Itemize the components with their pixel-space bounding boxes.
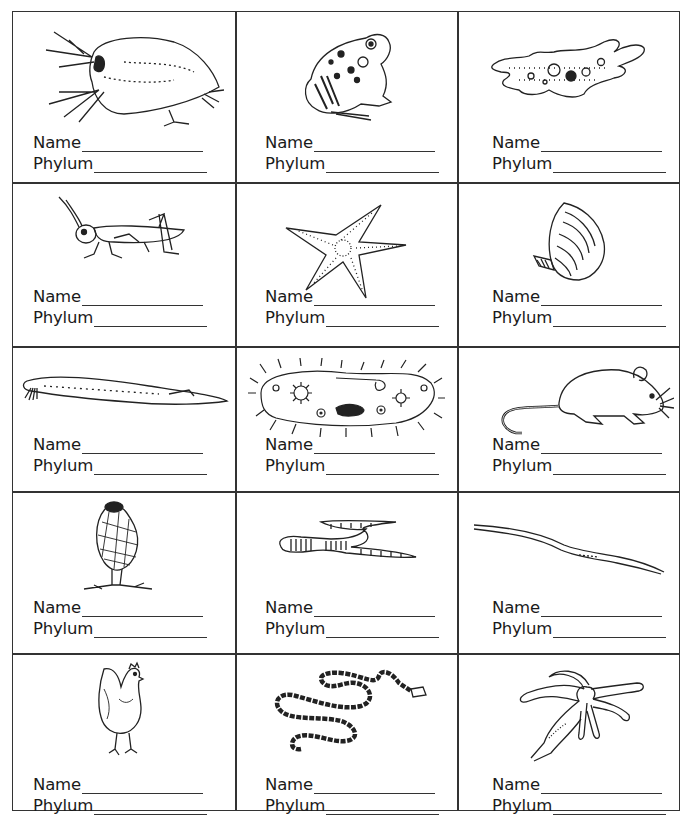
chicken-icon — [13, 659, 235, 759]
phylum-field[interactable]: Phylum — [492, 797, 666, 815]
name-answer-line[interactable] — [314, 779, 435, 794]
name-answer-line[interactable] — [82, 779, 203, 794]
phylum-answer-line[interactable] — [326, 312, 439, 327]
name-answer-line[interactable] — [314, 439, 435, 454]
name-label: Name — [492, 288, 540, 306]
name-field[interactable]: Name — [265, 288, 435, 306]
phylum-field[interactable]: Phylum — [265, 155, 439, 173]
phylum-answer-line[interactable] — [326, 623, 439, 638]
name-answer-line[interactable] — [541, 439, 662, 454]
name-field[interactable]: Name — [33, 776, 203, 794]
phylum-label: Phylum — [265, 309, 325, 327]
grasshopper-icon — [13, 192, 235, 262]
phylum-answer-line[interactable] — [553, 312, 666, 327]
phylum-label: Phylum — [492, 797, 552, 815]
name-field[interactable]: Name — [265, 436, 435, 454]
name-label: Name — [33, 599, 81, 617]
phylum-label: Phylum — [33, 309, 93, 327]
phylum-label: Phylum — [33, 155, 93, 173]
name-label: Name — [265, 134, 313, 152]
phylum-answer-line[interactable] — [553, 460, 666, 475]
name-label: Name — [33, 436, 81, 454]
phylum-field[interactable]: Phylum — [492, 309, 666, 327]
phylum-answer-line[interactable] — [94, 800, 207, 815]
name-field[interactable]: Name — [492, 436, 662, 454]
phylum-field[interactable]: Phylum — [265, 620, 439, 638]
organism-card-earthworm: Name Phylum — [235, 491, 457, 653]
phylum-answer-line[interactable] — [94, 460, 207, 475]
name-field[interactable]: Name — [33, 599, 203, 617]
phylum-field[interactable]: Phylum — [265, 797, 439, 815]
name-answer-line[interactable] — [541, 602, 662, 617]
name-answer-line[interactable] — [82, 291, 203, 306]
phylum-field[interactable]: Phylum — [33, 620, 207, 638]
mouse-icon — [472, 358, 689, 438]
phylum-field[interactable]: Phylum — [492, 155, 666, 173]
lancelet-icon — [13, 366, 235, 411]
phylum-answer-line[interactable] — [326, 460, 439, 475]
phylum-answer-line[interactable] — [553, 800, 666, 815]
phylum-label: Phylum — [492, 620, 552, 638]
earthworm-icon — [235, 517, 457, 567]
name-answer-line[interactable] — [314, 137, 435, 152]
name-field[interactable]: Name — [265, 134, 435, 152]
organism-card-chicken: Name Phylum — [13, 653, 235, 812]
name-label: Name — [265, 436, 313, 454]
roundworm-icon — [457, 517, 681, 577]
phylum-field[interactable]: Phylum — [33, 797, 207, 815]
name-field[interactable]: Name — [33, 134, 203, 152]
name-answer-line[interactable] — [541, 779, 662, 794]
name-answer-line[interactable] — [541, 137, 662, 152]
phylum-field[interactable]: Phylum — [33, 309, 207, 327]
organism-card-hydra: Name Phylum — [457, 653, 681, 812]
name-answer-line[interactable] — [314, 291, 435, 306]
phylum-field[interactable]: Phylum — [33, 457, 207, 475]
phylum-field[interactable]: Phylum — [492, 620, 666, 638]
name-label: Name — [33, 134, 81, 152]
paramecium-icon — [235, 358, 457, 438]
name-answer-line[interactable] — [82, 439, 203, 454]
hydra-icon — [467, 663, 689, 763]
name-label: Name — [492, 776, 540, 794]
phylum-label: Phylum — [33, 457, 93, 475]
name-field[interactable]: Name — [492, 776, 662, 794]
name-field[interactable]: Name — [33, 288, 203, 306]
name-field[interactable]: Name — [265, 776, 435, 794]
phylum-answer-line[interactable] — [553, 623, 666, 638]
name-answer-line[interactable] — [541, 291, 662, 306]
name-field[interactable]: Name — [265, 599, 435, 617]
organism-card-tapeworm: Name Phylum — [235, 653, 457, 812]
name-answer-line[interactable] — [314, 602, 435, 617]
phylum-label: Phylum — [492, 457, 552, 475]
starfish-icon — [235, 200, 457, 300]
phylum-field[interactable]: Phylum — [33, 155, 207, 173]
daphnia-icon — [13, 22, 235, 127]
name-answer-line[interactable] — [82, 137, 203, 152]
name-field[interactable]: Name — [492, 134, 662, 152]
organism-card-grasshopper: Name Phylum — [13, 182, 235, 346]
organism-card-daphnia: Name Phylum — [13, 12, 235, 182]
phylum-answer-line[interactable] — [94, 312, 207, 327]
name-field[interactable]: Name — [492, 599, 662, 617]
phylum-field[interactable]: Phylum — [492, 457, 666, 475]
name-answer-line[interactable] — [82, 602, 203, 617]
name-label: Name — [492, 599, 540, 617]
name-label: Name — [265, 599, 313, 617]
name-field[interactable]: Name — [492, 288, 662, 306]
phylum-answer-line[interactable] — [553, 158, 666, 173]
sponge-icon — [13, 497, 235, 597]
organism-card-sponge: Name Phylum — [13, 491, 235, 653]
phylum-field[interactable]: Phylum — [265, 309, 439, 327]
name-label: Name — [33, 288, 81, 306]
phylum-label: Phylum — [265, 457, 325, 475]
name-label: Name — [492, 134, 540, 152]
name-field[interactable]: Name — [33, 436, 203, 454]
phylum-answer-line[interactable] — [326, 800, 439, 815]
phylum-field[interactable]: Phylum — [265, 457, 439, 475]
phylum-answer-line[interactable] — [94, 623, 207, 638]
phylum-label: Phylum — [265, 620, 325, 638]
worksheet-grid: Name Phylum Name Phylum — [12, 11, 680, 811]
phylum-answer-line[interactable] — [94, 158, 207, 173]
organism-card-clam: Name Phylum — [457, 182, 681, 346]
phylum-answer-line[interactable] — [326, 158, 439, 173]
